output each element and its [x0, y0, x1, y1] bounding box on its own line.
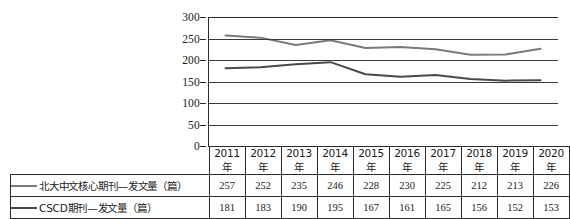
- y-axis-tick-mark: [200, 17, 206, 18]
- data-cell: 252: [245, 175, 281, 197]
- gridline: [208, 103, 558, 104]
- data-cell: 183: [245, 197, 281, 219]
- y-axis-tick-mark: [200, 39, 206, 40]
- data-cell: 153: [533, 197, 569, 219]
- plot-area: [208, 17, 558, 146]
- legend-label: 北大中文核心期刊—发文量（篇）: [39, 178, 187, 193]
- y-axis-tick-label: 300: [182, 11, 200, 23]
- table-row: 北大中文核心期刊—发文量（篇）2572522352462282302252122…: [11, 175, 570, 197]
- line-chart-figure: 300250200150100500 2011年2012年2013年2014年2…: [0, 0, 567, 216]
- data-cell: 190: [281, 197, 317, 219]
- legend-label: CSCD期刊—发文量（篇）: [39, 200, 156, 215]
- data-cell: 212: [461, 175, 497, 197]
- table-row: CSCD期刊—发文量（篇）181183190195167161165156152…: [11, 197, 570, 219]
- data-cell: 152: [497, 197, 533, 219]
- table-header-row: 2011年2012年2013年2014年2015年2016年2017年2018年…: [11, 147, 570, 175]
- y-axis-tick-label: 50: [188, 119, 200, 131]
- y-axis-tick-label: 200: [182, 54, 200, 66]
- year-header-cell: 2016年: [389, 147, 425, 175]
- y-axis-tick-mark: [200, 103, 206, 104]
- series-line-2: [226, 62, 541, 80]
- gridline: [208, 125, 558, 126]
- data-cell: 167: [353, 197, 389, 219]
- gridline: [208, 39, 558, 40]
- legend-row-2: CSCD期刊—发文量（篇）: [11, 197, 210, 219]
- data-cell: 226: [533, 175, 569, 197]
- year-header-cell: 2017年: [425, 147, 461, 175]
- data-cell: 156: [461, 197, 497, 219]
- y-axis-tick-mark: [200, 125, 206, 126]
- legend-swatch-icon: [11, 185, 37, 187]
- y-axis-tick-mark: [200, 60, 206, 61]
- table-corner-spacer: [11, 147, 210, 175]
- year-header-cell: 2020年: [533, 147, 569, 175]
- legend-row-1: 北大中文核心期刊—发文量（篇）: [11, 175, 210, 197]
- data-cell: 181: [209, 197, 245, 219]
- data-cell: 225: [425, 175, 461, 197]
- data-cell: 235: [281, 175, 317, 197]
- data-legend-table: 2011年2012年2013年2014年2015年2016年2017年2018年…: [10, 146, 570, 219]
- data-cell: 230: [389, 175, 425, 197]
- year-header-cell: 2012年: [245, 147, 281, 175]
- data-cell: 257: [209, 175, 245, 197]
- data-cell: 161: [389, 197, 425, 219]
- year-header-cell: 2011年: [209, 147, 245, 175]
- data-cell: 213: [497, 175, 533, 197]
- y-axis: 300250200150100500: [160, 11, 204, 153]
- legend-swatch-icon: [11, 207, 37, 209]
- year-header-cell: 2015年: [353, 147, 389, 175]
- year-header-cell: 2014年: [317, 147, 353, 175]
- gridline: [208, 82, 558, 83]
- y-axis-tick-label: 150: [182, 76, 200, 88]
- year-header-cell: 2018年: [461, 147, 497, 175]
- year-header-cell: 2019年: [497, 147, 533, 175]
- gridline: [208, 60, 558, 61]
- data-cell: 165: [425, 197, 461, 219]
- y-axis-tick-mark: [200, 82, 206, 83]
- year-header-cell: 2013年: [281, 147, 317, 175]
- data-cell: 246: [317, 175, 353, 197]
- data-cell: 195: [317, 197, 353, 219]
- y-axis-tick-label: 100: [182, 97, 200, 109]
- y-axis-tick-label: 250: [182, 33, 200, 45]
- data-cell: 228: [353, 175, 389, 197]
